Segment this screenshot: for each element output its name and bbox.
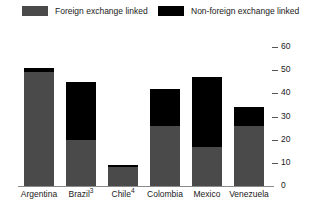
bar-group-chile[interactable] [108, 47, 138, 186]
bar-group-venezuela[interactable] [234, 47, 264, 186]
bar-segment-non-fx-mexico [192, 77, 222, 147]
bar-argentina[interactable] [24, 68, 54, 186]
y-tick-label-10: 10 [281, 157, 290, 168]
bar-segment-fx-argentina [24, 72, 54, 186]
tick-mark-icon [272, 70, 278, 71]
bar-segment-fx-venezuela [234, 126, 264, 186]
tick-mark-icon [272, 47, 278, 48]
x-label-chile: Chile4 [102, 189, 144, 200]
y-tick-label-0: 0 [281, 180, 286, 191]
x-label-venezuela-text: Venezuela [229, 189, 269, 199]
legend-swatch-black-icon [158, 6, 184, 16]
y-tick-label-60: 60 [281, 41, 290, 52]
bar-segment-non-fx-brazil [66, 82, 96, 140]
y-tick-label-20: 20 [281, 134, 290, 145]
bar-segment-fx-mexico [192, 147, 222, 186]
y-axis-right-ticks: 60 50 40 30 20 10 0 [270, 0, 310, 213]
bar-colombia[interactable] [150, 89, 180, 186]
x-axis-category-labels: Argentina Brazil3 Chile4 Colombia Mexico… [18, 189, 270, 207]
tick-mark-icon [272, 140, 278, 141]
x-axis-baseline [18, 186, 274, 187]
bar-group-mexico[interactable] [192, 47, 222, 186]
bars-container [18, 47, 270, 186]
bar-brazil[interactable] [66, 82, 96, 186]
x-label-brazil-footnote: 3 [90, 187, 94, 194]
bar-venezuela[interactable] [234, 107, 264, 186]
x-label-brazil-text: Brazil [69, 189, 90, 199]
bar-segment-fx-chile [108, 167, 138, 186]
x-label-colombia: Colombia [144, 189, 186, 200]
x-label-mexico-text: Mexico [194, 189, 221, 199]
y-tick-label-30: 30 [281, 111, 290, 122]
bar-mexico[interactable] [192, 77, 222, 186]
bar-chile[interactable] [108, 165, 138, 186]
bar-segment-fx-colombia [150, 126, 180, 186]
legend-label-foreign-exchange-linked: Foreign exchange linked [55, 6, 148, 16]
y-tick-label-40: 40 [281, 87, 290, 98]
x-label-colombia-text: Colombia [147, 189, 183, 199]
x-label-venezuela: Venezuela [228, 189, 270, 200]
stacked-bar-chart: Foreign exchange linked Non-foreign exch… [0, 0, 310, 213]
x-label-chile-text: Chile [112, 189, 131, 199]
chart-legend: Foreign exchange linked Non-foreign exch… [0, 4, 310, 22]
y-tick-label-50: 50 [281, 64, 290, 75]
tick-mark-icon [272, 93, 278, 94]
plot-area [18, 47, 270, 186]
bar-segment-non-fx-colombia [150, 89, 180, 126]
bar-segment-non-fx-venezuela [234, 107, 264, 126]
y-axis-left-ticks [0, 0, 18, 213]
bar-group-brazil[interactable] [66, 47, 96, 186]
x-label-argentina-text: Argentina [21, 189, 57, 199]
x-label-argentina: Argentina [18, 189, 60, 200]
bar-group-argentina[interactable] [24, 47, 54, 186]
x-label-brazil: Brazil3 [60, 189, 102, 200]
bar-group-colombia[interactable] [150, 47, 180, 186]
x-label-chile-footnote: 4 [131, 187, 135, 194]
x-label-mexico: Mexico [186, 189, 228, 200]
legend-swatch-gray-icon [22, 6, 48, 16]
bar-segment-fx-brazil [66, 140, 96, 186]
tick-mark-icon [272, 117, 278, 118]
tick-mark-icon [272, 163, 278, 164]
legend-item-foreign-exchange-linked: Foreign exchange linked [22, 4, 148, 18]
